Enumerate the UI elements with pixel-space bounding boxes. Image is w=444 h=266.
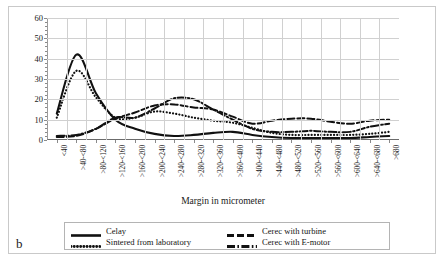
legend-swatch-solid [71,226,101,235]
gridline-vertical [379,18,380,140]
y-tick-mark-minor [45,112,47,113]
x-tick-label: >200-<240 [158,145,167,177]
gridline-vertical [86,18,87,140]
x-tick-mark [350,140,351,143]
y-tick-mark-minor [45,128,47,129]
legend-swatch-dotted [71,237,101,246]
y-tick-label: 0 [39,135,43,145]
y-tick-label: 40 [35,54,44,64]
legend-item: Cerec with turbine [227,226,383,236]
x-tick-mark [370,140,371,143]
legend-swatch-dashdot [227,237,257,246]
gridline-vertical [340,18,341,140]
chart-legend: CelayCerec with turbineSintered from lab… [64,222,390,250]
legend-label: Sintered from laboratory [106,237,191,247]
y-tick-mark [44,99,47,100]
figure-panel: b Frequency in % 0102030405060<40>40-<80… [0,0,444,266]
y-tick-mark [44,38,47,39]
x-tick-mark [291,140,292,143]
gridline-vertical [321,18,322,140]
legend-swatch-dashed [227,226,257,235]
x-tick-label: >120-<160 [118,145,127,177]
y-tick-mark-minor [45,26,47,27]
x-tick-label: >520-<560 [314,145,323,177]
y-tick-mark [44,120,47,121]
y-tick-mark-minor [45,51,47,52]
x-tick-label: >40-<80 [79,145,88,170]
y-tick-mark-minor [45,42,47,43]
y-tick-mark-minor [45,132,47,133]
y-tick-mark-minor [45,124,47,125]
x-tick-mark [155,140,156,143]
y-tick-mark-minor [45,83,47,84]
figure-letter: b [16,236,23,252]
x-tick-mark [311,140,312,143]
y-tick-mark-minor [45,55,47,56]
gridline-vertical [243,18,244,140]
y-tick-label: 50 [35,33,44,43]
y-tick-label: 30 [35,74,44,84]
y-tick-mark-minor [45,103,47,104]
y-tick-mark-minor [45,30,47,31]
y-tick-mark-minor [45,87,47,88]
y-tick-mark-minor [45,34,47,35]
y-tick-mark-minor [45,91,47,92]
x-tick-label: >80-<120 [99,145,108,173]
legend-label: Cerec with turbine [262,226,326,236]
legend-item: Sintered from laboratory [71,237,227,247]
x-tick-label: >440-<480 [275,145,284,177]
x-tick-mark [76,140,77,143]
gridline-vertical [203,18,204,140]
gridline-vertical [125,18,126,140]
y-tick-mark [44,59,47,60]
legend-item: Cerec with E-motor [227,237,383,247]
y-axis-title: Frequency in % [14,0,28,18]
x-tick-mark [272,140,273,143]
x-tick-label: >320-<360 [216,145,225,177]
gridline-vertical [282,18,283,140]
y-tick-mark-minor [45,95,47,96]
x-tick-label: >600-<640 [353,145,362,177]
x-tick-label: >160-<200 [138,145,147,177]
plot-area: 0102030405060<40>40-<80>80-<120>120-<160… [47,18,399,140]
y-tick-mark-minor [45,107,47,108]
x-tick-label: >240-<280 [177,145,186,177]
x-tick-mark [233,140,234,143]
x-tick-label: >400-<440 [255,145,264,177]
x-tick-label: >680 [392,145,401,160]
x-tick-label: >560-<600 [334,145,343,177]
gridline-vertical [360,18,361,140]
legend-label: Cerec with E-motor [262,237,330,247]
y-tick-mark [44,18,47,19]
y-tick-mark [44,140,47,141]
gridline-vertical [164,18,165,140]
gridline-vertical [106,18,107,140]
x-tick-mark [331,140,332,143]
x-tick-mark [252,140,253,143]
gridline-vertical [223,18,224,140]
x-tick-label: >480-<520 [294,145,303,177]
gridline-vertical [184,18,185,140]
y-tick-mark-minor [45,22,47,23]
y-tick-label: 20 [35,94,44,104]
x-tick-label: >360-<400 [236,145,245,177]
gridline-vertical [67,18,68,140]
y-tick-mark-minor [45,75,47,76]
y-tick-label: 10 [35,115,44,125]
y-tick-mark [44,79,47,80]
x-tick-mark [135,140,136,143]
legend-item: Celay [71,226,227,236]
x-tick-mark [213,140,214,143]
x-tick-mark [174,140,175,143]
gridline-vertical [301,18,302,140]
gridline-vertical [262,18,263,140]
x-tick-mark [96,140,97,143]
x-tick-mark [57,140,58,143]
y-tick-mark-minor [45,46,47,47]
x-tick-mark [115,140,116,143]
y-tick-mark-minor [45,67,47,68]
y-tick-label: 60 [35,13,44,23]
y-tick-mark-minor [45,63,47,64]
legend-label: Celay [106,226,126,236]
gridline-vertical [145,18,146,140]
